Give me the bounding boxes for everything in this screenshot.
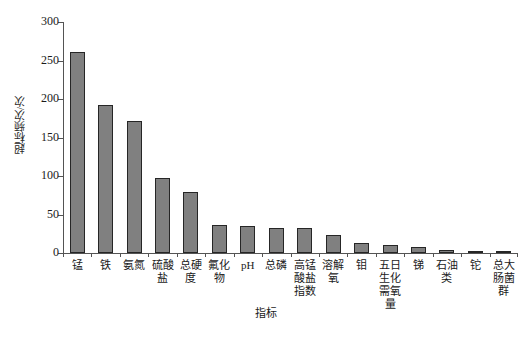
y-tick-label: 300 [41, 14, 59, 28]
x-category-label: 钼 [350, 259, 374, 272]
bar [212, 225, 227, 253]
x-tick-mark [205, 253, 206, 257]
x-category-label: 氟化物 [207, 259, 231, 285]
x-category-label: 锑 [406, 259, 430, 272]
x-tick-mark [148, 253, 149, 257]
x-category-label: 高锰酸盐指数 [293, 259, 317, 298]
x-category-label: 总大肠菌群 [492, 259, 516, 298]
bar [439, 250, 454, 253]
x-category-label: 硫酸盐 [151, 259, 175, 285]
bar [240, 226, 255, 253]
x-tick-mark [461, 253, 462, 257]
y-axis-line [63, 22, 64, 253]
bar [183, 192, 198, 253]
x-category-label: 氨氮 [122, 259, 146, 272]
y-tick-label: 0 [53, 245, 59, 259]
bar [383, 245, 398, 253]
y-tick-label: 100 [41, 168, 59, 182]
bar [70, 52, 85, 253]
x-tick-mark [120, 253, 121, 257]
plot-area: 050100150200250300 [63, 22, 518, 253]
x-tick-mark [91, 253, 92, 257]
x-tick-mark [262, 253, 263, 257]
x-axis-title: 指标 [0, 307, 532, 320]
bar [411, 247, 426, 253]
bar-chart-figure: 超标频次/次 050100150200250300 锰铁氨氮硫酸盐总硬度氟化物p… [0, 0, 532, 340]
y-tick-label: 150 [41, 130, 59, 144]
bar [127, 121, 142, 253]
x-tick-mark [319, 253, 320, 257]
bar [326, 235, 341, 253]
x-tick-mark [291, 253, 292, 257]
x-tick-mark [376, 253, 377, 257]
x-category-label: 锰 [65, 259, 89, 272]
bar [98, 105, 113, 253]
x-tick-mark [490, 253, 491, 257]
x-category-label: pH [235, 259, 261, 272]
x-tick-mark [177, 253, 178, 257]
x-category-label: 石油类 [435, 259, 459, 285]
x-tick-mark [404, 253, 405, 257]
bar [496, 251, 511, 253]
x-tick-mark [347, 253, 348, 257]
y-tick-label: 200 [41, 91, 59, 105]
bar [269, 228, 284, 253]
x-category-label: 铁 [94, 259, 118, 272]
y-tick-label: 50 [47, 207, 59, 221]
bar [297, 228, 312, 253]
x-category-label: 铊 [463, 259, 487, 272]
x-tick-mark [517, 253, 518, 257]
x-category-label: 总硬度 [179, 259, 203, 285]
bar [155, 178, 170, 253]
y-tick-label: 250 [41, 53, 59, 67]
x-tick-mark [63, 253, 64, 257]
x-tick-mark [234, 253, 235, 257]
bar [468, 251, 483, 253]
x-category-label: 溶解氧 [321, 259, 345, 285]
x-tick-mark [433, 253, 434, 257]
x-category-label: 五日生化需氧量 [378, 259, 402, 311]
y-axis-title: 超标频次/次 [14, 96, 32, 154]
bar [354, 243, 369, 253]
x-category-label: 总磷 [264, 259, 288, 272]
